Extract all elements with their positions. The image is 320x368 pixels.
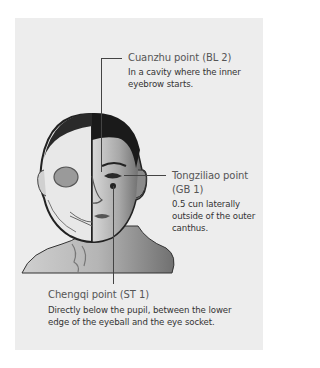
tongziliao-description: 0.5 cun laterally outside of the outer c… xyxy=(172,198,255,234)
cuanzhu-leader-h xyxy=(101,58,122,59)
chengqi-leader xyxy=(113,186,114,284)
cuanzhu-title: Cuanzhu point (BL 2) xyxy=(128,52,231,63)
tongziliao-leader xyxy=(124,175,166,176)
cuanzhu-description: In a cavity where the inner eyebrow star… xyxy=(128,66,241,90)
tongziliao-title: Tongziliao point (GB 1) xyxy=(172,169,248,197)
chengqi-title: Chengqi point (ST 1) xyxy=(48,289,149,300)
eye-socket xyxy=(54,167,78,187)
cuanzhu-leader-v xyxy=(101,58,102,172)
chengqi-description: Directly below the pupil, between the lo… xyxy=(48,304,231,328)
